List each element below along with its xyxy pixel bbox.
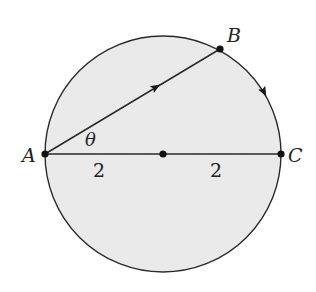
radius-label-left: 2 [93,159,105,181]
point-center [159,150,166,157]
label-a: A [20,144,36,166]
radius-label-right: 2 [210,159,222,181]
label-c: C [288,144,303,166]
label-b: B [226,24,241,46]
angle-theta-label: θ [85,129,96,150]
circle-diagram: A B C θ 2 2 [0,0,316,292]
point-c [277,150,284,157]
point-a [41,150,48,157]
point-b [216,45,223,52]
